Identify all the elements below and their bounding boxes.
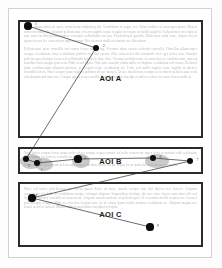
aoi-c-paragraph-1: Nunc sed tortor pellentesque nec lorem i…	[24, 187, 197, 210]
aoi-region-a[interactable]: Lorem ipsum dolor sit amet, consectetur …	[18, 20, 203, 138]
aoi-c-label: AOI C	[20, 210, 201, 219]
aoi-a-label: AOI A	[20, 74, 201, 83]
aoi-region-b[interactable]: Nunc lacinia tempus lorem ipsum dolor si…	[18, 147, 203, 174]
aoi-a-paragraph-1: Lorem ipsum dolor sit amet, consectetur …	[24, 25, 197, 43]
aoi-region-c[interactable]: Nunc sed tortor pellentesque nec lorem i…	[18, 182, 203, 247]
aoi-b-label: AOI B	[20, 157, 201, 166]
figure-canvas: Lorem ipsum dolor sit amet, consectetur …	[0, 0, 222, 268]
